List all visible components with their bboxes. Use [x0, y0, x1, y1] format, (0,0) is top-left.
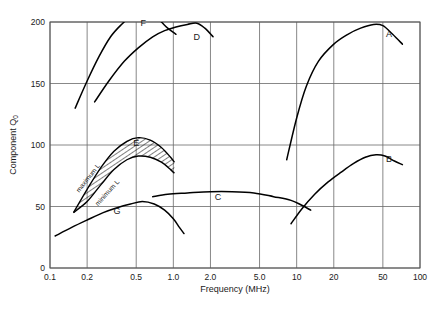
curve-group [55, 12, 402, 236]
curve-label-a: A [386, 29, 392, 39]
x-tick-label: 0.2 [81, 272, 93, 282]
x-tick-label: 100 [413, 272, 427, 282]
component-q-vs-frequency-chart: 050100150200 0.10.20.51.02.05.0102050100… [0, 0, 442, 314]
y-axis-title: Component Q0 [8, 115, 19, 175]
x-tick-label: 1.0 [167, 272, 179, 282]
y-tick-label: 100 [31, 140, 45, 150]
x-tick-label: 0.1 [44, 272, 56, 282]
curve-a [287, 24, 403, 160]
y-axis-title-group: Component Q0 [8, 115, 19, 175]
x-tick-label: 0.5 [130, 272, 142, 282]
x-tick-label: 10 [292, 272, 302, 282]
x-tick-label: 20 [329, 272, 339, 282]
curve-label-group: ABCDEFG [114, 18, 392, 216]
x-tick-label: 2.0 [205, 272, 217, 282]
x-tick-label: 5.0 [254, 272, 266, 282]
band-lower-edge-minimum-l [73, 156, 174, 213]
x-axis-title: Frequency (MHz) [200, 284, 270, 294]
curve-b [291, 155, 402, 224]
y-tick-label: 50 [36, 202, 46, 212]
curve-c [153, 192, 311, 211]
curve-label-f: F [140, 18, 146, 28]
chart-figure: 050100150200 0.10.20.51.02.05.0102050100… [0, 0, 442, 314]
curve-label-c: C [215, 192, 222, 202]
x-axis-tick-labels: 0.10.20.51.02.05.0102050100 [44, 272, 427, 282]
y-tick-label: 150 [31, 79, 45, 89]
y-tick-label: 200 [31, 17, 45, 27]
curve-label-d: D [194, 32, 201, 42]
curve-label-g: G [114, 206, 121, 216]
curve-label-b: B [386, 154, 392, 164]
x-tick-label: 50 [378, 272, 388, 282]
curve-label-e: E [133, 138, 139, 148]
grid-lines [50, 22, 420, 268]
y-axis-tick-labels: 050100150200 [31, 17, 45, 273]
